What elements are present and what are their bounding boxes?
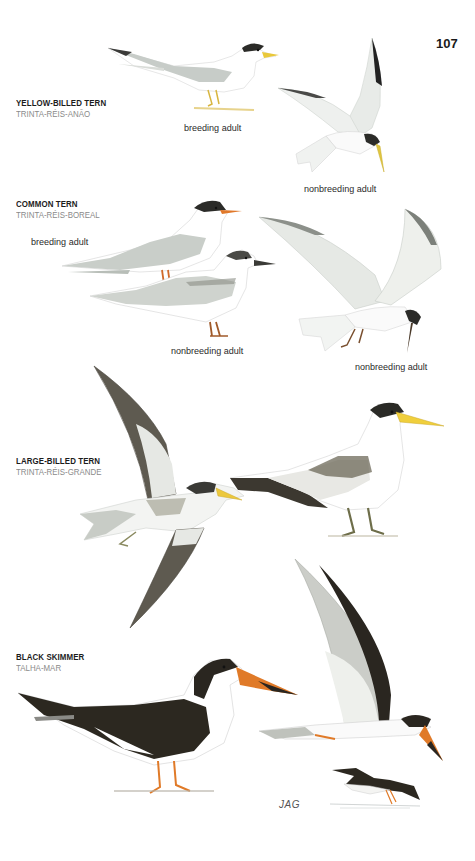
black-skimmer-flying-illustration [255, 555, 445, 765]
caption-nonbreeding-adult: nonbreeding adult [304, 183, 376, 194]
common-tern-nonbreeding-illustration [86, 248, 278, 340]
page-number: 107 [436, 36, 458, 51]
artist-signature: JAG [279, 799, 300, 810]
large-billed-tern-perched-illustration [228, 400, 448, 545]
large-billed-tern-flying-illustration [76, 364, 244, 632]
common-tern-flying-illustration [255, 205, 445, 355]
species-yellow-billed-tern-label: YELLOW-BILLED TERN TRINTA-RÉIS-ANÃO [16, 98, 114, 120]
caption-breeding-adult: breeding adult [184, 122, 241, 133]
caption-nonbreeding-adult-flying: nonbreeding adult [355, 361, 427, 372]
caption-nonbreeding-adult: nonbreeding adult [171, 345, 243, 356]
species-local-name: TRINTA-RÉIS-ANÃO [16, 109, 106, 120]
yellow-billed-tern-flying-illustration [276, 36, 388, 176]
yellow-billed-tern-perched-illustration [104, 38, 279, 118]
black-skimmer-skimming-illustration [330, 764, 422, 810]
species-name: YELLOW-BILLED TERN [16, 98, 106, 109]
